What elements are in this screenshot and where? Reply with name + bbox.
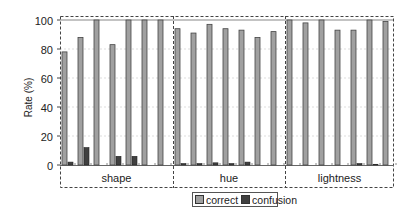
section-label-lightness: lightness [285, 172, 394, 184]
bar-confusion [229, 164, 234, 165]
y-tick-40: 40 [29, 102, 53, 114]
correct-swatch-icon [195, 195, 204, 204]
bar-confusion [373, 164, 378, 165]
bar-correct [383, 21, 388, 165]
bar-correct [351, 30, 356, 165]
confusion-swatch-icon [241, 195, 250, 204]
y-tick-100: 100 [29, 15, 53, 27]
y-tick-80: 80 [29, 44, 53, 56]
bar-correct [335, 30, 340, 165]
legend-label-correct: correct [206, 194, 238, 206]
bar-correct [319, 20, 324, 165]
y-tick-0: 0 [29, 160, 53, 172]
legend-item-confusion: confusion [241, 194, 297, 206]
bar-correct [175, 29, 180, 165]
bar-correct [287, 20, 292, 165]
bar-confusion [197, 164, 202, 165]
legend-item-correct: correct [195, 194, 238, 206]
bar-correct [126, 20, 131, 165]
bar-correct [62, 52, 67, 165]
bar-correct [94, 20, 99, 165]
bar-confusion [116, 156, 121, 165]
bar-confusion [213, 163, 218, 165]
section-label-hue: hue [173, 172, 285, 184]
bar-correct [271, 32, 276, 165]
bar-correct [78, 37, 83, 165]
bar-correct [367, 20, 372, 165]
y-tick-60: 60 [29, 73, 53, 85]
bar-correct [223, 29, 228, 165]
bar-correct [142, 20, 147, 165]
bar-confusion [181, 164, 186, 165]
bar-confusion [357, 164, 362, 165]
bar-correct [110, 45, 115, 165]
bar-confusion [245, 162, 250, 165]
legend-label-confusion: confusion [252, 194, 297, 206]
bar-correct [158, 20, 163, 165]
bar-correct [239, 30, 244, 165]
section-label-shape: shape [60, 172, 173, 184]
bar-correct [191, 33, 196, 165]
bar-chart [0, 0, 416, 218]
bar-correct [255, 37, 260, 165]
bar-correct [303, 23, 308, 165]
legend: correct confusion [192, 192, 278, 207]
bar-confusion [68, 162, 73, 165]
bar-confusion [132, 156, 137, 165]
bar-correct [207, 24, 212, 165]
bar-confusion [84, 148, 89, 165]
y-tick-20: 20 [29, 131, 53, 143]
